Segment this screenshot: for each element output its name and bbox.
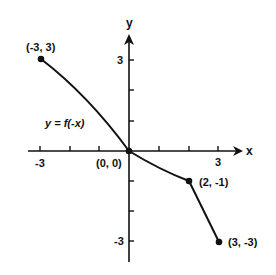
y-tick-label-neg3: -3 [114,235,124,247]
y-tick-label-3: 3 [117,54,123,66]
function-graph: y x -3 3 3 -3 y = f(-x) (-3, 3) (0, 0) (… [0,0,276,275]
x-tick-label-3: 3 [215,156,221,168]
point-label-3-neg3: (3, -3) [228,236,258,248]
point-3-neg3 [216,239,223,246]
y-axis-label: y [126,16,133,30]
x-tick-label-neg3: -3 [35,157,45,169]
curve-label: y = f(-x) [44,117,85,129]
segment-2-to-3 [189,181,219,242]
point-neg3-3 [38,56,45,63]
point-label-neg3-3: (-3, 3) [26,41,56,53]
x-axis-label: x [246,144,253,158]
segment-neg3-to-0 [41,59,129,151]
segment-0-to-2 [129,151,189,181]
point-0-0 [126,148,133,155]
point-label-0-0: (0, 0) [96,157,122,169]
point-2-neg1 [186,178,193,185]
point-label-2-neg1: (2, -1) [199,176,229,188]
